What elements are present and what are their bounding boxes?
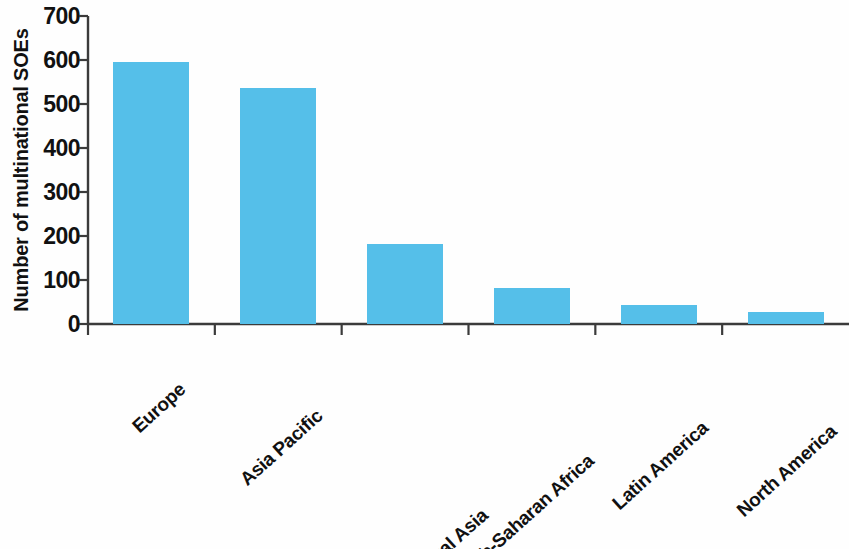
- bar: [621, 305, 697, 324]
- bar-slot: [88, 16, 215, 324]
- x-tick-label: Middle East and Central Asia: [478, 336, 680, 521]
- bar: [748, 312, 824, 324]
- x-axis-tick-labels: EuropeAsia PacificMiddle East and Centra…: [88, 326, 849, 549]
- bar: [494, 288, 570, 324]
- bar: [367, 244, 443, 324]
- bar-slot: [215, 16, 342, 324]
- bar: [113, 62, 189, 324]
- x-tick-label: Asia Pacific: [313, 336, 404, 421]
- x-tick-label: Europe: [176, 336, 238, 395]
- bar-slot: [469, 16, 596, 324]
- x-tick-label: North America: [826, 336, 849, 437]
- plot-area: [88, 16, 849, 324]
- bar: [240, 88, 316, 324]
- bar-chart-figure: Number of multinational SOEs 01002003004…: [0, 0, 849, 549]
- bar-slot: [722, 16, 849, 324]
- bar-slot: [595, 16, 722, 324]
- bar-slot: [342, 16, 469, 324]
